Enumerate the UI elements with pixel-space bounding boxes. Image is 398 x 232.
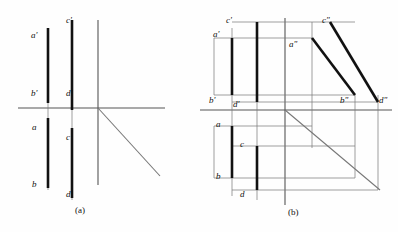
mitre-line-45-panel-a (98, 108, 160, 176)
label-b: b (216, 172, 221, 181)
label-b-prime: b' (209, 96, 215, 105)
label-a: a (32, 123, 37, 132)
segment-a-dblprime-b-dblprime (312, 38, 355, 95)
label-c: c (66, 133, 70, 142)
label-b: b (32, 180, 37, 189)
segment-c-dblprime-d-dblprime (330, 22, 378, 102)
figure-canvas: a'c'b'd'acbd(a)c'c"a'a"b'd'b"d"acbd(b) (0, 0, 398, 232)
label-c-prime: c' (66, 16, 72, 25)
label-d-prime: d' (66, 89, 72, 98)
label-d: d (240, 190, 245, 199)
label-b-prime: b' (31, 89, 37, 98)
label-a-prime: a' (213, 30, 219, 39)
label-a-dblprime: a" (289, 40, 297, 49)
projection-drawing (0, 0, 398, 232)
label-d-dblprime: d" (379, 96, 387, 105)
caption-panel-b: (b) (288, 208, 299, 217)
label-d: d (66, 190, 71, 199)
label-c-dblprime: c" (322, 16, 330, 25)
label-b-dblprime: b" (340, 96, 348, 105)
label-c: c (240, 140, 244, 149)
label-c-prime: c' (226, 16, 232, 25)
label-d-prime: d' (233, 100, 239, 109)
label-a: a (216, 120, 221, 129)
label-a-prime: a' (31, 31, 37, 40)
caption-panel-a: (a) (75, 206, 85, 215)
